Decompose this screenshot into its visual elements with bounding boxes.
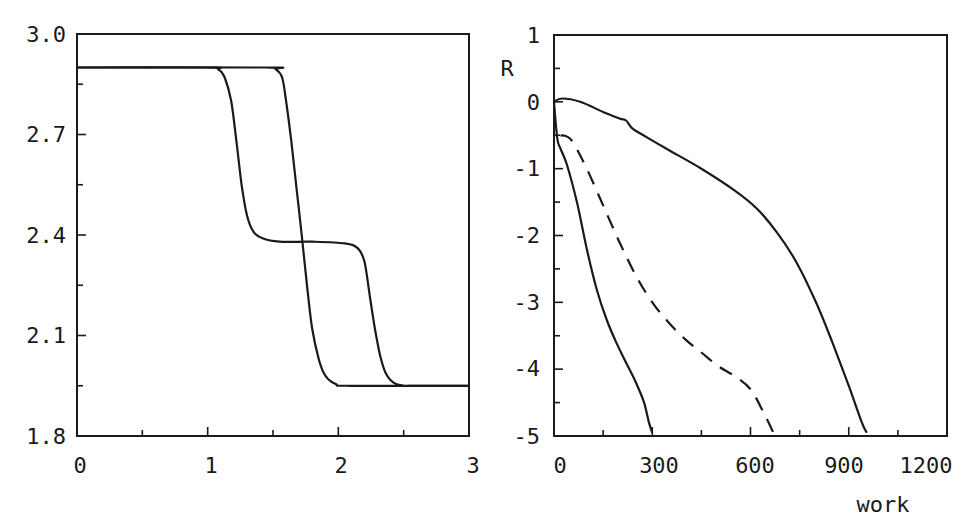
left-plot: 3.0 2.7 2.4 2.1 1.8 0 1 2 3	[26, 22, 479, 478]
right-y-tick-0: 0	[527, 90, 540, 115]
right-x-tick-300: 300	[639, 453, 679, 478]
right-x-tick-600: 600	[735, 453, 775, 478]
right-plot-series	[554, 99, 867, 433]
left-plot-frame	[77, 34, 469, 436]
right-y-tick-neg2: -2	[514, 223, 541, 248]
left-x-tick-1: 1	[204, 453, 217, 478]
left-y-tick-3.0: 3.0	[26, 22, 66, 47]
right-y-tick-neg3: -3	[514, 290, 541, 315]
left-x-tick-2: 2	[334, 453, 347, 478]
right-x-tick-900: 900	[824, 453, 864, 478]
right-series-solid-line	[554, 102, 652, 433]
right-x-tick-1200: 1200	[900, 453, 953, 478]
right-series-dashed-line	[561, 135, 774, 432]
left-y-tick-2.1: 2.1	[26, 323, 66, 348]
left-x-tick-0: 0	[73, 453, 86, 478]
right-x-tick-0: 0	[553, 453, 566, 478]
right-series-solid-line	[554, 99, 867, 433]
left-y-tick-1.8: 1.8	[26, 424, 66, 449]
left-series-solid-line	[77, 67, 469, 386]
right-y-tick-neg5: -5	[514, 424, 541, 449]
right-plot: R 1 0 -1 -2 -3 -4 -5 0 300 600 900 1200 …	[500, 23, 952, 517]
left-x-tick-3: 3	[466, 453, 479, 478]
figure: 3.0 2.7 2.4 2.1 1.8 0 1 2 3 R 1 0 -1 -2 …	[0, 0, 973, 529]
right-x-axis-label: work	[857, 492, 910, 517]
left-series-solid-line	[77, 67, 469, 386]
right-plot-frame	[554, 35, 947, 436]
left-plot-series	[77, 67, 469, 386]
left-y-tick-2.4: 2.4	[26, 223, 66, 248]
left-y-tick-2.7: 2.7	[26, 122, 66, 147]
right-y-tick-neg1: -1	[514, 156, 541, 181]
left-plot-ticks	[77, 84, 404, 436]
right-y-tick-neg4: -4	[514, 356, 541, 381]
right-y-axis-label: R	[500, 56, 514, 81]
right-y-tick-1: 1	[527, 23, 540, 48]
